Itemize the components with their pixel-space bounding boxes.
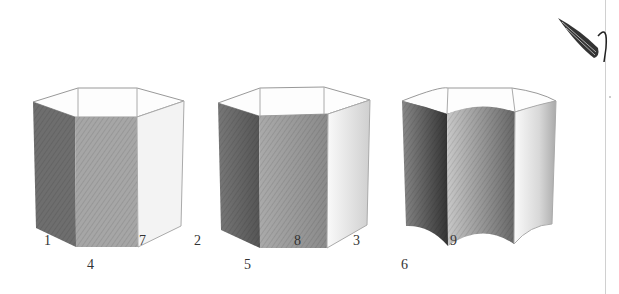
prism-flat: [33, 88, 184, 247]
label-3: 3: [353, 234, 360, 248]
label-2: 2: [194, 234, 201, 248]
label-1: 1: [44, 234, 51, 248]
winged-emblem-icon: [558, 18, 606, 62]
label-4: 4: [87, 258, 94, 272]
prism-concave: [402, 88, 556, 246]
label-7: 7: [139, 234, 146, 248]
label-9: 9: [450, 234, 457, 248]
shading-illustration: [0, 0, 619, 294]
label-8: 8: [294, 234, 301, 248]
label-5: 5: [244, 258, 251, 272]
label-6: 6: [401, 258, 408, 272]
prism-gradient: [218, 87, 370, 248]
